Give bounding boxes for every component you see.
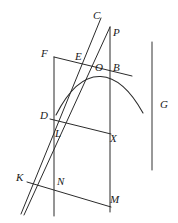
point-label-g: G — [160, 99, 168, 110]
point-label-d: D — [40, 110, 48, 121]
point-label-c: C — [93, 10, 100, 21]
line-chord-kp — [24, 27, 110, 215]
point-label-m: M — [110, 194, 119, 205]
point-label-n: N — [57, 176, 64, 187]
geometry-figure: C P F E O B G D L X K N M — [0, 0, 178, 223]
point-label-l: L — [55, 128, 61, 139]
line-transversal-top-fb — [54, 57, 132, 76]
point-label-f: F — [41, 48, 48, 59]
line-transversal-low-km — [27, 182, 111, 207]
point-label-e: E — [75, 51, 82, 62]
point-label-p: P — [113, 27, 120, 38]
point-label-x: X — [110, 133, 117, 144]
point-label-b: B — [113, 62, 120, 73]
point-label-o: O — [95, 62, 103, 73]
figure-canvas — [0, 0, 178, 223]
point-label-k: K — [16, 172, 23, 183]
